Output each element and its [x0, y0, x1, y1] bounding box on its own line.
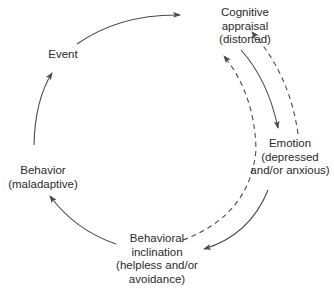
node-behavior-line-2: (maladaptive) — [4, 178, 82, 192]
arrow-event-to-cognitive — [77, 15, 180, 44]
node-cognitive-appraisal: Cognitive appraisal (distorted) — [205, 6, 285, 47]
node-emotion-line-1: Emotion — [244, 137, 334, 151]
node-behavioral-inclination: Behavioral inclination (helpless and/or … — [112, 232, 202, 286]
node-event-line-1: Event — [45, 48, 81, 62]
dashed-emotion-to-cognitive — [252, 32, 298, 134]
node-inclination-line-3: (helpless and/or — [112, 259, 202, 273]
node-behavior-line-1: Behavior — [4, 164, 82, 178]
node-behavior: Behavior (maladaptive) — [4, 164, 82, 191]
node-inclination-line-2: inclination — [112, 246, 202, 260]
node-event: Event — [45, 48, 81, 62]
node-inclination-line-4: avoidance) — [112, 273, 202, 287]
node-emotion-line-2: (depressed — [244, 151, 334, 165]
node-emotion: Emotion (depressed and/or anxious) — [244, 137, 334, 178]
arrow-emotion-to-inclination — [204, 190, 268, 249]
node-cognitive-line-1: Cognitive — [205, 6, 285, 20]
node-cognitive-line-2: appraisal — [205, 20, 285, 34]
node-inclination-line-1: Behavioral — [112, 232, 202, 246]
arrow-inclination-to-behavior — [50, 196, 116, 244]
arrow-behavior-to-event — [34, 73, 52, 145]
node-emotion-line-3: and/or anxious) — [244, 164, 334, 178]
arrow-cognitive-to-emotion — [241, 50, 278, 128]
node-cognitive-line-3: (distorted) — [205, 33, 285, 47]
